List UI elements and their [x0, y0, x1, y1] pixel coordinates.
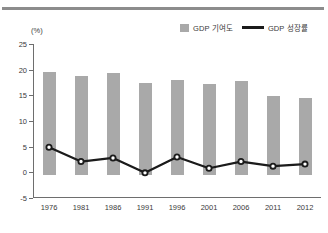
legend-item-line: GDP 성장률 — [242, 22, 308, 33]
legend-bar-swatch-icon — [180, 24, 189, 32]
x-axis-tick-label: 2006 — [233, 203, 250, 212]
y-axis-tick-label: 15 — [19, 91, 27, 100]
line-marker — [174, 154, 179, 159]
line-marker — [206, 166, 211, 171]
y-axis-tick-label: 10 — [19, 117, 27, 126]
x-axis-tick-label: 2001 — [201, 203, 218, 212]
top-divider-rule — [2, 7, 324, 10]
line-marker — [142, 170, 147, 175]
legend-label-bar: GDP 기여도 — [193, 22, 233, 33]
x-axis-tick-label: 1996 — [169, 203, 186, 212]
legend-item-bar: GDP 기여도 — [180, 22, 233, 33]
x-axis-tick-label: 1981 — [73, 203, 90, 212]
legend-line-swatch-icon — [242, 26, 264, 29]
y-axis-tick-label: 0 — [23, 168, 27, 177]
x-axis-tick-label: 1976 — [41, 203, 58, 212]
y-axis-tick-label: -5 — [20, 194, 27, 203]
y-axis-tick-label: 5 — [23, 142, 27, 151]
line-marker — [110, 155, 115, 160]
y-axis-unit-label: (%) — [31, 26, 43, 35]
x-axis-tick-label: 1991 — [137, 203, 154, 212]
x-axis-tick-label: 2011 — [265, 203, 281, 212]
chart-figure: (%) GDP 기여도 GDP 성장률 2520151050-5 1976198… — [0, 0, 328, 233]
y-axis-tick-label: 25 — [19, 40, 27, 49]
legend-label-line: GDP 성장률 — [268, 22, 308, 33]
chart-legend: GDP 기여도 GDP 성장률 — [180, 22, 308, 33]
line-series — [33, 44, 321, 198]
line-marker — [46, 145, 51, 150]
y-axis-tick-label: 20 — [19, 65, 27, 74]
line-marker — [302, 162, 307, 167]
x-axis-labels: 197619811986199119962001200620112012 — [33, 203, 321, 217]
x-axis-tick-label: 2012 — [297, 203, 314, 212]
line-marker — [270, 164, 275, 169]
y-axis-tick — [29, 198, 33, 199]
line-marker — [238, 159, 243, 164]
plot-area: 2520151050-5 — [33, 44, 321, 198]
line-marker — [78, 159, 83, 164]
x-axis-tick-label: 1986 — [105, 203, 122, 212]
